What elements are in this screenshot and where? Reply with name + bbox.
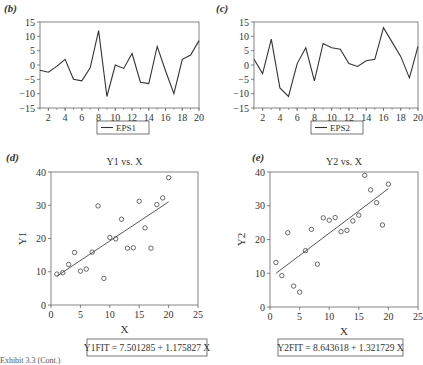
regression-line [57, 202, 169, 276]
y-tick-label: −10 [19, 88, 35, 99]
scatter-point [363, 173, 367, 177]
scatter-point [345, 228, 349, 232]
x-tick-label: 2 [260, 112, 265, 123]
panel-label: (c) [216, 2, 228, 15]
panel-label: (b) [4, 2, 17, 15]
panel-label: (d) [6, 151, 19, 164]
y-tick-label: −15 [19, 103, 35, 114]
x-tick-label: 20 [194, 112, 204, 123]
scatter-point [374, 201, 378, 205]
x-tick-label: 18 [396, 112, 406, 123]
x-tick-label: 5 [78, 309, 83, 320]
x-tick-label: 5 [297, 311, 302, 322]
figure-canvas: (b)−15−10−50510152468101214161820EPS1(c)… [0, 0, 423, 365]
y-tick-label: 20 [36, 233, 46, 244]
scatter-point [108, 235, 112, 239]
y-tick-label: 40 [255, 167, 265, 178]
x-axis-label: X [121, 323, 129, 335]
scatter-point [125, 246, 129, 250]
scatter-point [155, 202, 159, 206]
panel-label: (e) [252, 151, 264, 164]
scatter-point [72, 250, 76, 254]
scatter-point [380, 223, 384, 227]
y-tick-label: 30 [36, 200, 46, 211]
plot-frame [51, 172, 198, 305]
y-tick-label: −10 [233, 88, 249, 99]
scatter-point [137, 199, 141, 203]
scatter-point [321, 216, 325, 220]
regression-line [276, 189, 388, 274]
y-tick-label: 10 [36, 266, 46, 277]
x-tick-label: 4 [277, 112, 282, 123]
figure-footer: Exhibit 3.3 (Cont.) [0, 356, 60, 365]
x-tick-label: 4 [63, 112, 68, 123]
legend-label: EPS2 [330, 123, 350, 133]
y-tick-label: 20 [255, 234, 265, 245]
scatter-point [274, 260, 278, 264]
scatter-point [84, 267, 88, 271]
scatter-point [280, 273, 284, 277]
x-tick-label: 0 [268, 311, 273, 322]
chart-e: (e)Y2 vs. X0102030400510152025XY2Y2FIT =… [235, 151, 423, 356]
x-tick-label: 10 [324, 311, 334, 322]
y-tick-label: 0 [260, 302, 265, 313]
chart-c: (c)−15−10−50510152468101214161820EPS2 [216, 2, 423, 134]
chart-b: (b)−15−10−50510152468101214161820EPS1 [4, 2, 204, 134]
y-tick-label: 0 [41, 300, 46, 311]
y-tick-label: 5 [244, 45, 249, 56]
x-tick-label: 15 [354, 311, 364, 322]
y-tick-label: −5 [24, 74, 35, 85]
scatter-point [339, 230, 343, 234]
scatter-point [327, 218, 331, 222]
scatter-point [66, 262, 70, 266]
x-tick-label: 0 [49, 309, 54, 320]
y-tick-label: −15 [233, 103, 249, 114]
y-tick-label: 40 [36, 167, 46, 178]
chart-title: Y1 vs. X [107, 156, 144, 167]
scatter-point [368, 188, 372, 192]
y-axis-label: Y1 [16, 232, 28, 245]
x-tick-label: 25 [193, 309, 203, 320]
scatter-point [131, 246, 135, 250]
plot-frame [254, 22, 418, 108]
scatter-point [297, 290, 301, 294]
scatter-point [161, 196, 165, 200]
y-tick-label: 30 [255, 200, 265, 211]
scatter-point [149, 246, 153, 250]
scatter-point [119, 217, 123, 221]
scatter-point [291, 284, 295, 288]
y-tick-label: 10 [25, 31, 35, 42]
scatter-point [143, 226, 147, 230]
y-axis-label: Y2 [235, 233, 247, 246]
chart-title: Y2 vs. X [326, 156, 363, 167]
x-tick-label: 20 [383, 311, 393, 322]
scatter-point [102, 276, 106, 280]
chart-d: (d)Y1 vs. X0102030400510152025XY1Y1FIT =… [6, 151, 210, 356]
series-line-eps2 [254, 28, 418, 97]
y-tick-label: 0 [30, 60, 35, 71]
x-tick-label: 6 [79, 112, 84, 123]
x-axis-label: X [340, 325, 348, 337]
scatter-point [286, 231, 290, 235]
x-tick-label: 16 [161, 112, 171, 123]
x-tick-label: 18 [177, 112, 187, 123]
scatter-point [386, 182, 390, 186]
y-tick-label: 10 [239, 31, 249, 42]
scatter-point [315, 262, 319, 266]
y-tick-label: 0 [244, 60, 249, 71]
legend-label: EPS1 [116, 123, 136, 133]
y-tick-label: 10 [255, 268, 265, 279]
x-tick-label: 25 [413, 311, 423, 322]
regression-equation: Y2FIT = 8.643618 + 1.321729 X [277, 343, 404, 353]
scatter-point [333, 215, 337, 219]
scatter-point [309, 227, 313, 231]
y-tick-label: 15 [25, 17, 35, 28]
x-tick-label: 16 [378, 112, 388, 123]
x-tick-label: 15 [134, 309, 144, 320]
y-tick-label: 5 [30, 45, 35, 56]
regression-equation: Y1FIT = 7.501285 + 1.175827 X [84, 343, 211, 353]
scatter-point [96, 204, 100, 208]
scatter-point [351, 219, 355, 223]
plot-frame [270, 172, 418, 307]
plot-frame [40, 22, 199, 108]
